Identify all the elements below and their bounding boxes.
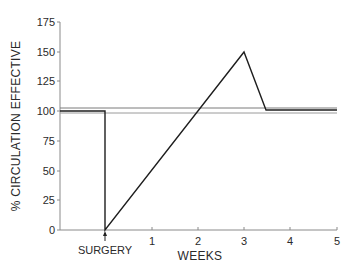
surgery-label: SURGERY bbox=[78, 244, 133, 256]
x-tick-label: 4 bbox=[287, 235, 293, 247]
y-tick-label: 175 bbox=[37, 16, 55, 28]
x-tick-label: 2 bbox=[195, 235, 201, 247]
y-tick-label: 100 bbox=[37, 105, 55, 117]
y-tick-label: 50 bbox=[43, 165, 55, 177]
y-axis-title: % CIRCULATION EFFECTIVE bbox=[9, 41, 23, 212]
surgery-marker: SURGERY bbox=[78, 231, 133, 256]
x-tick-label: 3 bbox=[241, 235, 247, 247]
y-tick-label: 75 bbox=[43, 135, 55, 147]
y-tick-label: 25 bbox=[43, 194, 55, 206]
chart: 175 150 125 100 75 50 25 0 1 2 3 4 5 SUR… bbox=[0, 0, 356, 272]
y-tick-labels: 175 150 125 100 75 50 25 0 bbox=[37, 16, 55, 236]
y-tick-label: 0 bbox=[49, 224, 55, 236]
arrowhead-icon bbox=[103, 231, 107, 236]
x-axis-title: WEEKS bbox=[178, 249, 223, 263]
y-tick-label: 150 bbox=[37, 46, 55, 58]
x-tick-label: 1 bbox=[149, 235, 155, 247]
y-tick-label: 125 bbox=[37, 75, 55, 87]
x-tick-label: 5 bbox=[334, 235, 340, 247]
x-tick-labels: 1 2 3 4 5 bbox=[149, 235, 340, 247]
series-line-circulation bbox=[60, 52, 337, 230]
